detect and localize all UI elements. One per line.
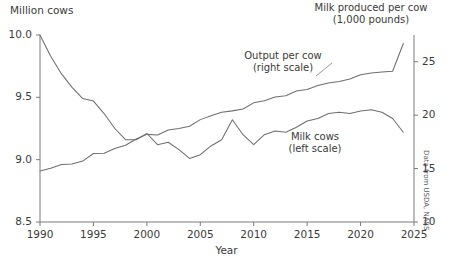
y-right-tick-25: 25: [422, 55, 452, 67]
x-tick-1990: 1990: [20, 228, 60, 240]
source-credit: Data from USDA, NASS: [422, 150, 430, 230]
y-right-tick-20: 20: [422, 108, 452, 120]
y-left-tick-9.5: 9.5: [0, 90, 32, 102]
x-axis-title: Year: [0, 244, 453, 256]
annotation-milk-cows-line1: Milk cows: [291, 131, 339, 142]
x-tick-2020: 2020: [341, 228, 381, 240]
annotation-milk-cows: Milk cows (left scale): [265, 131, 365, 154]
annotation-output-per-cow: Output per cow (right scale): [228, 50, 338, 73]
annotation-milk-cows-line2: (left scale): [289, 143, 342, 154]
y-left-tick-9.0: 9.0: [0, 153, 32, 165]
x-tick-2010: 2010: [234, 228, 274, 240]
annotation-output-per-cow-line1: Output per cow: [244, 50, 322, 61]
axis-lines: [40, 35, 414, 222]
x-tick-2015: 2015: [287, 228, 327, 240]
x-tick-2000: 2000: [127, 228, 167, 240]
y-left-tick-8.5: 8.5: [0, 215, 32, 227]
x-tick-2005: 2005: [180, 228, 220, 240]
chart-figure: Million cows Milk produced per cow (1,00…: [0, 0, 453, 265]
y-left-tick-10.0: 10.0: [0, 28, 32, 40]
plot-area: [0, 0, 453, 265]
x-tick-1995: 1995: [73, 228, 113, 240]
annotation-output-per-cow-line2: (right scale): [253, 62, 313, 73]
